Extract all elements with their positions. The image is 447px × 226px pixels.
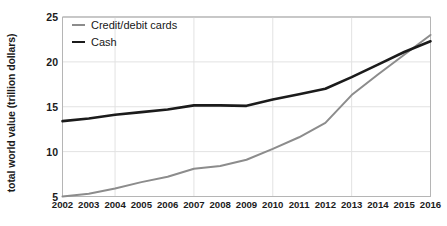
legend-item-credit-debit-cards: Credit/debit cards	[72, 18, 177, 32]
legend-swatch-icon-credit-debit-cards	[72, 24, 85, 26]
legend-swatch-icon-cash	[72, 41, 85, 43]
chart-legend: Credit/debit cards Cash	[72, 18, 177, 49]
legend-label-credit-debit-cards: Credit/debit cards	[91, 19, 177, 31]
series-line-cash	[63, 41, 431, 121]
legend-label-cash: Cash	[91, 36, 117, 48]
plot-area	[0, 0, 447, 226]
data-series-lines	[63, 35, 431, 197]
legend-item-cash: Cash	[72, 35, 177, 49]
line-chart: total world value (trillion dollars) 510…	[0, 0, 447, 226]
